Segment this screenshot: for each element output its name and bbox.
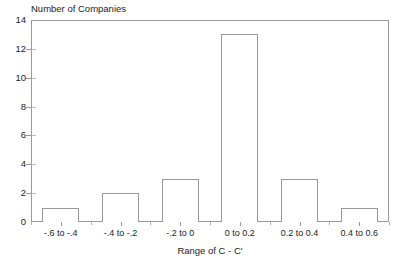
y-tick-label: 14 — [2, 14, 26, 25]
x-tick-label: -.4 to -.2 — [91, 227, 151, 239]
x-tick-boundary — [270, 222, 271, 225]
y-tick-label: 4 — [2, 158, 26, 169]
x-tick-label: -.2 to 0 — [150, 227, 210, 239]
x-tick-label: 0.4 to 0.6 — [329, 227, 389, 239]
x-tick-boundary — [31, 222, 32, 225]
x-tick-boundary — [150, 222, 151, 225]
bar — [102, 193, 139, 222]
bar — [341, 208, 378, 222]
y-tick-label: 0 — [2, 216, 26, 227]
y-tick-label: 8 — [2, 101, 26, 112]
bar — [162, 179, 199, 222]
y-tick-label: 6 — [2, 129, 26, 140]
bar — [221, 34, 258, 222]
x-tick-mark — [240, 222, 241, 226]
x-tick-mark — [300, 222, 301, 226]
x-tick-mark — [359, 222, 360, 226]
x-tick-mark — [180, 222, 181, 226]
histogram-chart: Number of Companies 02468101214 -.6 to -… — [0, 0, 403, 266]
x-axis-tick-labels: -.6 to -.4-.4 to -.2-.2 to 00 to 0.20.2 … — [31, 227, 389, 241]
bar — [281, 179, 318, 222]
x-axis-title: Range of C - C' — [31, 245, 389, 257]
x-tick-boundary — [210, 222, 211, 225]
x-tick-mark — [121, 222, 122, 226]
x-tick-label: -.6 to -.4 — [31, 227, 91, 239]
x-tick-boundary — [389, 222, 390, 225]
x-tick-boundary — [91, 222, 92, 225]
x-tick-label: 0 to 0.2 — [210, 227, 270, 239]
x-tick-boundary — [329, 222, 330, 225]
x-tick-mark — [61, 222, 62, 226]
y-tick-label: 10 — [2, 72, 26, 83]
bars-layer — [31, 20, 389, 222]
y-tick-label: 12 — [2, 43, 26, 54]
y-tick-label: 2 — [2, 187, 26, 198]
x-tick-label: 0.2 to 0.4 — [270, 227, 330, 239]
bar — [42, 208, 79, 222]
